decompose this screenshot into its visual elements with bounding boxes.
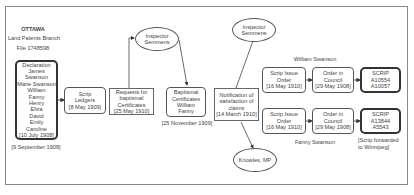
node-line: A5543 xyxy=(372,124,388,130)
header-subtitle: Land Patents Branch xyxy=(6,35,62,42)
node-line: Semmens xyxy=(241,30,266,36)
knowles-mp: Knowles, MP xyxy=(233,148,277,172)
header-file: File 1748598 xyxy=(10,45,56,52)
header-title: OTTAWA xyxy=(10,26,56,33)
declaration-caption: [9 September 1908] xyxy=(8,144,64,151)
fanny-scrip-box: SCRIP A13844 A5543 xyxy=(360,108,401,134)
node-line: [16 May 1910] xyxy=(266,124,301,130)
inspector-semmens-2: Inspector Semmens xyxy=(232,18,276,42)
fanny-scrip-issue-box: Scrip Issue Order [16 May 1910] xyxy=(262,108,306,134)
declaration-line: [10 July 1908] xyxy=(19,132,54,138)
node-line: Semmens xyxy=(144,39,169,45)
william-label: William Swanson xyxy=(285,56,345,63)
node-line: Knowles, MP xyxy=(239,157,272,163)
scrip-ledgers-box: Scrip Ledgers [8 May 1909] xyxy=(64,87,106,114)
baptismal-certificates-box: Baptismal Certificates William Fanny xyxy=(166,87,206,117)
notification-box: Notification of satisfaction of claims [… xyxy=(214,88,259,121)
node-line: Fanny xyxy=(178,108,194,114)
node-line: [29 May 1908] xyxy=(315,83,350,89)
node-line: [8 May 1909] xyxy=(69,104,101,110)
connector-lines xyxy=(0,0,414,195)
william-order-council-box: Order in Council [29 May 1908] xyxy=(312,67,354,93)
inspector-semmens-1: Inspector Semmens xyxy=(135,27,179,51)
node-line: [29 May 1908] xyxy=(315,124,350,130)
note-line: to Winnipeg] xyxy=(358,144,408,151)
node-line: A10057 xyxy=(371,83,390,89)
fanny-label: Fanny Swanson xyxy=(285,139,345,146)
node-line: [14 March 1910] xyxy=(216,111,256,117)
node-line: [16 May 1910] xyxy=(266,83,301,89)
fanny-order-council-box: Order in Council [29 May 1908] xyxy=(312,108,354,134)
fanny-note: [Scrip forwarded to Winnipeg] xyxy=(358,137,408,150)
baptismal-caption: [25 November 1909] xyxy=(160,120,214,127)
william-scrip-box: SCRIP A10554 A10057 xyxy=(360,67,401,93)
note-line: [Scrip forwarded xyxy=(358,137,408,144)
declaration-box: Declaration James Swanson Marie Swanson … xyxy=(15,60,58,140)
requests-box: Requests for baptismal Certificates [25 … xyxy=(109,88,154,115)
declaration-line: James Swanson xyxy=(17,68,56,81)
william-scrip-issue-box: Scrip Issue Order [16 May 1910] xyxy=(262,67,306,93)
node-line: [25 May 1910] xyxy=(114,108,149,114)
